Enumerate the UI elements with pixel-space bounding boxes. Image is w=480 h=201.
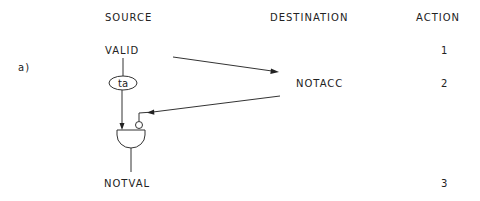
- diagram-canvas: SOURCE DESTINATION ACTION a) VALID NOTAC…: [0, 0, 480, 201]
- ta-label: ta: [118, 78, 128, 89]
- valid-to-notacc-line: [173, 57, 272, 71]
- diagram-lines: ta: [0, 0, 480, 201]
- and-gate-icon: [117, 130, 145, 148]
- inversion-bubble-icon: [136, 122, 143, 129]
- notacc-to-gate-line: [153, 96, 280, 112]
- arrowhead-valid-notacc: [270, 69, 279, 75]
- arrowhead-ta-gate: [120, 123, 125, 130]
